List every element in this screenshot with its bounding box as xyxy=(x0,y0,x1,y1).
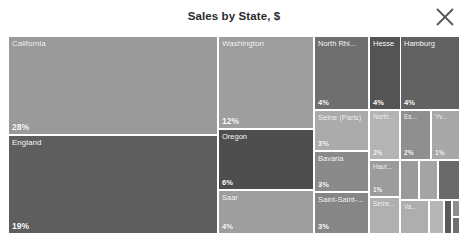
treemap-tile[interactable]: North Rhi...4% xyxy=(314,36,369,110)
treemap-tile[interactable] xyxy=(429,200,444,234)
treemap-tile[interactable]: Washington12% xyxy=(218,36,314,129)
tile-value: 4% xyxy=(404,98,415,107)
treemap-tile[interactable] xyxy=(452,200,460,217)
treemap-tile[interactable] xyxy=(419,160,438,200)
treemap-tile[interactable]: Saar4% xyxy=(218,190,314,234)
tile-value: 19% xyxy=(12,222,29,231)
tile-value: 3% xyxy=(318,139,329,148)
treemap-tile[interactable]: North...2% xyxy=(369,110,400,160)
treemap-tile[interactable]: Yv...1% xyxy=(431,110,460,160)
tile-label: Yv... xyxy=(435,113,457,121)
treemap-tile[interactable]: Va... xyxy=(400,200,429,234)
treemap-tile[interactable]: Seine (Paris)3% xyxy=(314,110,369,151)
chart-header: Sales by State, $ xyxy=(0,0,468,36)
treemap-tile[interactable] xyxy=(400,160,419,200)
treemap-tile[interactable] xyxy=(444,200,452,234)
treemap-tile[interactable]: Seine... xyxy=(369,197,400,234)
tile-label: Bavaria xyxy=(318,154,366,163)
treemap-tile[interactable]: Oregon6% xyxy=(218,129,314,190)
tile-label: Va... xyxy=(404,203,426,211)
tile-label: California xyxy=(12,39,215,48)
tile-label: North Rhi... xyxy=(318,39,366,48)
treemap-tile[interactable]: England19% xyxy=(8,135,218,234)
tile-value: 2% xyxy=(373,149,382,157)
tile-label: Es... xyxy=(404,113,428,121)
treemap-tile[interactable]: Hamburg4% xyxy=(400,36,460,110)
treemap-tile[interactable] xyxy=(452,217,460,234)
tile-value: 4% xyxy=(318,98,329,107)
tile-value: 4% xyxy=(373,98,384,107)
tile-label: Haut... xyxy=(373,163,397,171)
treemap-tile[interactable]: Haut...1% xyxy=(369,160,400,197)
treemap-tile[interactable]: Bavaria3% xyxy=(314,151,369,192)
tile-label: Hamburg xyxy=(404,39,457,48)
tile-label: North... xyxy=(373,113,397,121)
treemap-tile[interactable]: Saint-Saint-...3% xyxy=(314,192,369,234)
tile-label: Washington xyxy=(222,39,311,48)
tile-value: 4% xyxy=(222,222,233,231)
chart-title: Sales by State, $ xyxy=(0,9,468,23)
tile-value: 1% xyxy=(435,149,444,157)
tile-label: Seine (Paris) xyxy=(318,113,366,122)
treemap-tile[interactable]: Es...2% xyxy=(400,110,431,160)
treemap-widget: Sales by State, $ California28%England19… xyxy=(0,0,468,234)
tile-label: Saar xyxy=(222,193,311,202)
tile-label: England xyxy=(12,138,215,147)
tile-label: Saint-Saint-... xyxy=(318,195,366,204)
tile-value: 12% xyxy=(222,117,239,126)
tile-value: 6% xyxy=(222,178,233,187)
tile-value: 3% xyxy=(318,180,329,189)
close-icon[interactable] xyxy=(432,4,458,30)
treemap-plot: California28%England19%Washington12%Oreg… xyxy=(8,36,460,234)
tile-value: 3% xyxy=(318,222,329,231)
tile-label: Oregon xyxy=(222,132,311,141)
tile-value: 2% xyxy=(404,149,413,157)
tile-label: Seine... xyxy=(373,200,397,208)
treemap-tile[interactable] xyxy=(438,160,460,200)
treemap-tile[interactable]: California28% xyxy=(8,36,218,135)
tile-value: 28% xyxy=(12,123,29,132)
tile-value: 1% xyxy=(373,186,382,194)
